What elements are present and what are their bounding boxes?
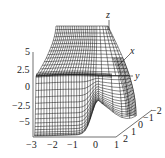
z-tick: −5 xyxy=(19,116,30,127)
y-tick: 2 xyxy=(123,133,128,144)
z-tick: 5 xyxy=(25,46,30,57)
y-tick: −2 xyxy=(151,105,162,116)
y-axis-label: y xyxy=(134,70,140,81)
x-tick: −1 xyxy=(67,139,78,150)
x-axis-label: x xyxy=(129,45,135,56)
y-tick: 1 xyxy=(131,126,136,137)
surface-mesh xyxy=(35,26,137,136)
surface-plot: z x y 5 2.5 0 −2.5 −5 −3 −2 −1 0 1 2 1 0… xyxy=(0,0,165,158)
z-tick: 2.5 xyxy=(17,64,30,75)
x-tick: 0 xyxy=(93,139,98,150)
x-tick: −2 xyxy=(47,139,58,150)
z-axis-label: z xyxy=(105,9,110,20)
z-tick: 0 xyxy=(25,81,30,92)
z-tick: −2.5 xyxy=(12,100,30,111)
x-tick: 1 xyxy=(114,139,119,150)
x-tick: −3 xyxy=(26,139,37,150)
